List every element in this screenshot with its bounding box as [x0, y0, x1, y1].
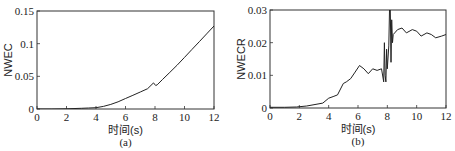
y-tick-label: 0.05 — [15, 70, 35, 82]
y-tick-label: 0.1 — [20, 38, 34, 50]
plot-frame — [270, 10, 446, 108]
x-axis-label: 时间(s) — [108, 124, 143, 136]
x-tick-label: 0 — [34, 111, 40, 123]
x-tick-label: 4 — [93, 111, 99, 123]
x-tick-label: 4 — [326, 110, 332, 122]
y-tick-label: 0.02 — [248, 37, 267, 49]
x-tick-label: 10 — [411, 110, 423, 122]
y-tick-label: 0.01 — [248, 69, 267, 81]
x-tick-label: 2 — [64, 111, 70, 123]
panel-caption: (b) — [352, 135, 365, 148]
panel-caption: (a) — [119, 136, 132, 149]
y-tick-label: 0 — [29, 103, 35, 115]
figure: 02468101200.050.10.15时间(s)NWEC(a) 024681… — [0, 0, 455, 151]
x-axis-label: 时间(s) — [341, 123, 376, 135]
x-tick-label: 6 — [123, 111, 129, 123]
x-tick-label: 12 — [209, 111, 220, 123]
y-axis-label: NWECR — [235, 38, 247, 80]
data-line — [37, 26, 214, 109]
x-tick-label: 8 — [152, 111, 158, 123]
x-tick-label: 12 — [441, 110, 452, 122]
y-tick-label: 0 — [262, 102, 268, 114]
x-tick-label: 6 — [355, 110, 361, 122]
y-axis-label: NWEC — [2, 43, 14, 77]
y-tick-label: 0.03 — [248, 4, 268, 16]
x-tick-label: 2 — [297, 110, 303, 122]
x-tick-label: 0 — [267, 110, 273, 122]
x-tick-label: 10 — [179, 111, 191, 123]
plot-frame — [37, 11, 214, 109]
chart-panel-a: 02468101200.050.10.15时间(s)NWEC(a) — [2, 5, 220, 149]
data-line — [270, 10, 446, 107]
x-tick-label: 8 — [385, 110, 391, 122]
y-tick-label: 0.15 — [15, 5, 35, 17]
chart-panel-b: 02468101200.010.020.03时间(s)NWECR(b) — [235, 4, 452, 148]
